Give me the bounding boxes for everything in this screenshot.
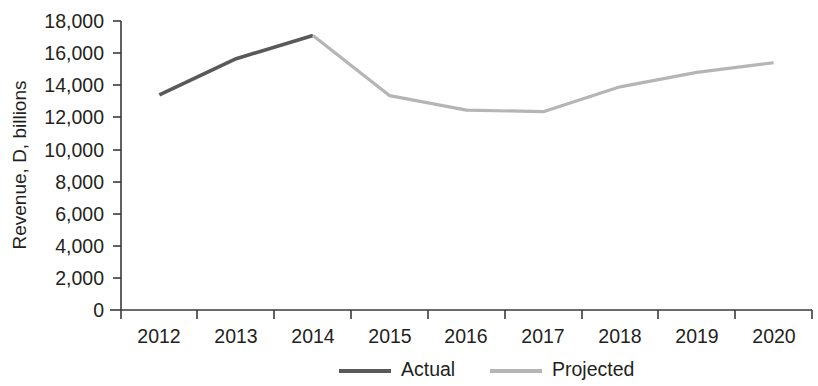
y-axis-title-text: Revenue, D, billions: [9, 81, 30, 250]
legend-label-projected: Projected: [552, 358, 634, 380]
y-axis: [110, 21, 121, 310]
x-tick-label: 2014: [291, 325, 335, 347]
x-tick-label: 2020: [752, 325, 796, 347]
x-tick-label: 2013: [214, 325, 257, 347]
y-tick-label: 10,000: [44, 139, 104, 161]
y-axis-tick-labels: 18,000 16,000 14,000 12,000 10,000 8,000…: [44, 10, 104, 321]
y-axis-title: Revenue, D, billions: [9, 81, 30, 250]
x-axis: [121, 310, 812, 319]
series-line-projected: [313, 35, 774, 111]
y-tick-label: 12,000: [44, 106, 104, 128]
y-tick-label: 4,000: [55, 235, 104, 257]
x-tick-label: 2015: [368, 325, 412, 347]
y-tick-label: 8,000: [55, 171, 104, 193]
chart-legend: Actual Projected: [339, 358, 634, 380]
y-tick-label: 6,000: [55, 203, 104, 225]
series-group: [159, 35, 773, 111]
x-tick-label: 2017: [521, 325, 564, 347]
y-tick-label: 18,000: [44, 10, 104, 32]
series-line-actual: [159, 35, 313, 94]
y-tick-label: 16,000: [44, 42, 104, 64]
y-tick-label: 14,000: [44, 74, 104, 96]
x-tick-label: 2018: [598, 325, 641, 347]
x-tick-label: 2016: [444, 325, 487, 347]
x-axis-tick-labels: 2012 2013 2014 2015 2016 2017 2018 2019 …: [137, 325, 796, 347]
line-chart: Revenue, D, billions 18,000 16,000 14,00…: [0, 0, 818, 386]
x-tick-label: 2019: [675, 325, 718, 347]
y-tick-label: 2,000: [55, 267, 104, 289]
chart-canvas: Revenue, D, billions 18,000 16,000 14,00…: [0, 0, 818, 386]
x-tick-label: 2012: [137, 325, 180, 347]
legend-label-actual: Actual: [401, 358, 455, 380]
y-tick-label: 0: [93, 299, 104, 321]
